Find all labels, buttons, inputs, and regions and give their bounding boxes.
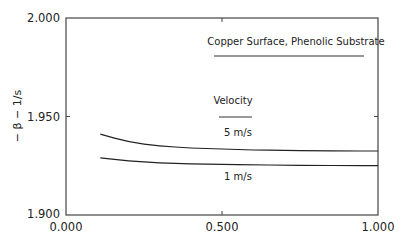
y-tick-label: 1.950 (27, 110, 60, 124)
x-tick-label: 0.000 (50, 220, 83, 234)
substrate-annotation: Copper Surface, Phenolic Substrate (207, 36, 384, 47)
x-tick-label: 0.500 (206, 220, 239, 234)
series-line-1ms (100, 158, 378, 166)
chart: 2.000 1.950 1.900 0.000 0.500 1.000 − β … (0, 0, 404, 241)
series-label-5ms: 5 m/s (224, 127, 252, 138)
legend-title: Velocity (213, 95, 252, 106)
y-tick-label: 1.900 (27, 207, 60, 221)
x-tick-label: 1.000 (362, 220, 395, 234)
series-label-1ms: 1 m/s (224, 171, 252, 182)
y-axis-label: − β − 1/s (11, 90, 24, 143)
y-tick-label: 2.000 (27, 11, 60, 25)
